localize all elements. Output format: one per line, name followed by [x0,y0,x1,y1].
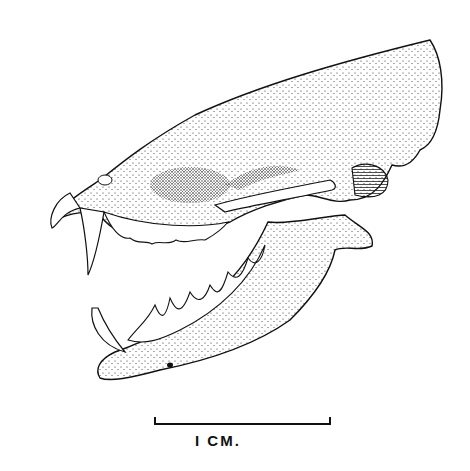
scale-bar [155,417,330,425]
scale-bar-label: I CM. [195,432,241,449]
lower-canine [92,308,125,352]
upper-canine [80,208,104,275]
skull-illustration [0,0,470,471]
